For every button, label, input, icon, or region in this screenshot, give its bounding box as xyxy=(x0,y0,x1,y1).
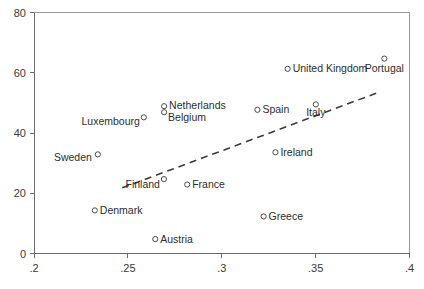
fit-line-group xyxy=(122,92,379,188)
data-point-label: Italy xyxy=(306,106,326,118)
data-point-label: Luxembourg xyxy=(81,115,140,127)
y-tick-label: 40 xyxy=(14,127,26,139)
y-tick-label: 0 xyxy=(20,248,26,260)
data-point-marker[interactable] xyxy=(273,150,278,155)
plot-border xyxy=(34,13,410,254)
data-point-label: United Kingdom xyxy=(293,62,368,74)
chart-frame xyxy=(34,13,410,254)
data-point-label: France xyxy=(192,178,225,190)
data-point-label: Spain xyxy=(262,103,289,115)
data-point-marker[interactable] xyxy=(141,115,146,120)
data-point-marker[interactable] xyxy=(162,110,167,115)
data-point-label: Finland xyxy=(125,178,160,190)
data-point-marker[interactable] xyxy=(185,182,190,187)
x-tick-label: .25 xyxy=(120,262,135,274)
plot-area: 020406080 .2.25.3.35.4 SwedenDenmarkLuxe… xyxy=(0,0,424,289)
data-point-label: Denmark xyxy=(100,204,143,216)
y-tick-label: 20 xyxy=(14,187,26,199)
x-axis-ticks: .2.25.3.35.4 xyxy=(29,254,414,274)
data-point-marker[interactable] xyxy=(261,214,266,219)
plot-axes xyxy=(34,13,410,254)
data-point-label: Austria xyxy=(160,233,193,245)
data-points-group: SwedenDenmarkLuxembourgBelgiumNetherland… xyxy=(54,56,404,245)
x-tick-label: .3 xyxy=(217,262,226,274)
data-point-marker[interactable] xyxy=(153,236,158,241)
regression-fit-line xyxy=(122,92,379,188)
y-tick-label: 80 xyxy=(14,7,26,19)
x-tick-label: .2 xyxy=(29,262,38,274)
data-point-label: Ireland xyxy=(280,146,312,158)
data-point-marker[interactable] xyxy=(95,152,100,157)
data-point-label: Sweden xyxy=(54,151,92,163)
data-point-marker[interactable] xyxy=(382,56,387,61)
x-tick-label: .4 xyxy=(405,262,414,274)
data-point-label: Greece xyxy=(269,210,304,222)
x-tick-label: .35 xyxy=(308,262,323,274)
y-axis-ticks: 020406080 xyxy=(14,7,34,260)
data-point-marker[interactable] xyxy=(255,107,260,112)
data-point-label: Belgium xyxy=(168,111,206,123)
data-point-marker[interactable] xyxy=(285,66,290,71)
data-point-marker[interactable] xyxy=(162,104,167,109)
y-tick-label: 60 xyxy=(14,67,26,79)
data-point-marker[interactable] xyxy=(92,208,97,213)
scatter-chart: 020406080 .2.25.3.35.4 SwedenDenmarkLuxe… xyxy=(0,0,424,289)
data-point-label: Portugal xyxy=(365,62,404,74)
data-point-marker[interactable] xyxy=(161,176,166,181)
data-point-label: Netherlands xyxy=(169,99,226,111)
